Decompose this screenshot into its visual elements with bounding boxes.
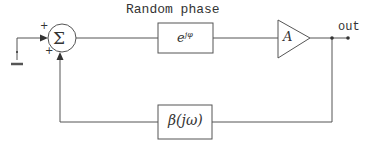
phase-label: ejφ: [177, 30, 193, 45]
feedback-label: β(jω): [168, 112, 203, 128]
sum-sign-input: +: [40, 20, 48, 31]
diagram-title: Random phase: [126, 2, 220, 17]
input-arrow-icon: [40, 35, 48, 42]
phase-exponent: jφ: [185, 30, 193, 39]
input-node-dot: [16, 51, 18, 53]
output-label: out: [338, 20, 360, 34]
junction-dot: [330, 36, 334, 40]
feedback-arrow-icon: [57, 52, 64, 60]
phase-base: e: [177, 30, 185, 45]
amplifier-gain-label: A: [283, 29, 292, 44]
sigma-symbol: Σ: [53, 28, 65, 48]
output-terminal-dot: [346, 36, 350, 40]
